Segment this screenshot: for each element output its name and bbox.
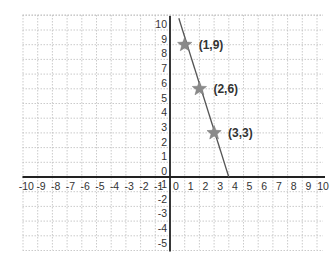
- grid-lines: [23, 15, 324, 251]
- axes: [23, 16, 326, 252]
- y-tick-label: 7: [161, 62, 167, 74]
- point-label: (3,3): [228, 126, 253, 140]
- x-tick-label: -5: [95, 180, 104, 192]
- x-tick-label: 7: [276, 180, 282, 192]
- y-tick-label: 8: [161, 47, 167, 59]
- y-tick-label: 2: [161, 136, 167, 148]
- x-tick-label: 1: [188, 180, 194, 192]
- x-tick-label: 6: [261, 180, 267, 192]
- x-tick-label: -6: [80, 180, 89, 192]
- x-axis-tick-labels: -10-9-8-7-6-5-4-3-2-1012345678910: [19, 180, 329, 192]
- x-tick-label: 4: [232, 180, 238, 192]
- x-tick-label: 2: [202, 180, 208, 192]
- x-tick-label: 8: [291, 180, 297, 192]
- x-tick-label: 9: [305, 180, 311, 192]
- y-tick-label: -3: [158, 207, 167, 219]
- x-tick-label: 3: [217, 180, 223, 192]
- x-tick-label: -8: [51, 180, 60, 192]
- point-label: (1,9): [199, 38, 224, 52]
- y-tick-label: 5: [161, 92, 167, 104]
- x-tick-label: -4: [110, 180, 119, 192]
- y-tick-label: 3: [161, 121, 167, 133]
- y-axis-tick-labels: 109876543210-1-2-3-4-5: [155, 18, 167, 249]
- y-tick-label: 10: [155, 18, 167, 30]
- x-tick-label: 5: [247, 180, 253, 192]
- y-tick-label: 0: [161, 165, 167, 177]
- x-tick-label: -3: [125, 180, 134, 192]
- y-tick-label: -5: [158, 237, 167, 249]
- y-tick-label: -2: [158, 193, 167, 205]
- star-marker-icon: [207, 125, 221, 139]
- y-tick-label: 6: [161, 77, 167, 89]
- y-tick-label: -4: [158, 222, 167, 234]
- x-tick-label: -9: [36, 180, 45, 192]
- y-tick-label: 4: [161, 106, 167, 118]
- x-tick-label: -7: [66, 180, 75, 192]
- x-tick-label: 10: [317, 180, 329, 192]
- y-tick-label: 9: [161, 33, 167, 45]
- star-marker-icon: [192, 81, 206, 95]
- coordinate-plane: -10-9-8-7-6-5-4-3-2-1012345678910 109876…: [0, 0, 333, 276]
- x-tick-label: -10: [19, 180, 34, 192]
- y-tick-label: -1: [158, 178, 167, 190]
- point-label: (2,6): [213, 82, 238, 96]
- x-tick-label: -2: [139, 180, 148, 192]
- x-tick-label: 0: [173, 180, 179, 192]
- y-tick-label: 1: [161, 150, 167, 162]
